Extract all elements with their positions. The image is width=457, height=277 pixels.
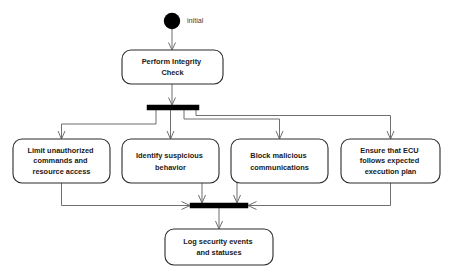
action-node-log-security-events[interactable]: Log security events and statuses <box>165 229 273 265</box>
action-label-line: communications <box>250 162 309 171</box>
fork-bar[interactable] <box>147 105 199 110</box>
action-node-label: Limit unauthorized commands and resource… <box>27 145 95 176</box>
action-label-line: follows expected <box>360 156 420 165</box>
action-node-limit-unauthorized-commands[interactable]: Limit unauthorized commands and resource… <box>13 139 110 183</box>
initial-node[interactable]: initial <box>164 13 204 29</box>
edge-identify-to-join <box>199 183 206 203</box>
fork-bar-shape <box>147 105 199 110</box>
action-label-line: resource access <box>33 167 91 176</box>
edge-initial-to-check <box>169 29 176 50</box>
edge-fork-to-ensure <box>196 110 394 139</box>
action-label-line: Limit unauthorized <box>27 145 94 154</box>
action-label-line: and statuses <box>196 248 241 257</box>
action-node-identify-suspicious-behavior[interactable]: Identify suspicious behavior <box>122 139 219 183</box>
action-node-label: Ensure that ECU follows expected executi… <box>360 145 422 176</box>
edge-fork-to-block <box>184 110 283 139</box>
edge-block-to-join <box>234 183 241 203</box>
action-label-line: Block malicious <box>250 151 306 160</box>
action-label-line: Perform Integrity <box>142 56 202 65</box>
join-bar-shape <box>190 203 248 208</box>
action-node-perform-integrity-check[interactable]: Perform Integrity Check <box>122 50 223 84</box>
initial-node-label: initial <box>187 16 204 25</box>
action-label-line: execution plan <box>365 167 417 176</box>
edge-check-to-fork <box>169 84 176 105</box>
edge-layer <box>58 29 394 229</box>
action-node-shape <box>231 139 328 183</box>
edge-fork-to-limit <box>58 110 156 139</box>
edge-fork-to-identify <box>167 110 174 139</box>
edge-join-to-log <box>216 208 223 229</box>
join-bar[interactable] <box>190 203 248 208</box>
activity-diagram-canvas: initial Perform Integrity Check Limit un… <box>0 0 457 277</box>
action-node-shape <box>122 139 219 183</box>
action-label-line: commands and <box>33 156 88 165</box>
action-node-ensure-ecu-execution-plan[interactable]: Ensure that ECU follows expected executi… <box>341 139 440 183</box>
action-node-block-malicious-communications[interactable]: Block malicious communications <box>231 139 328 183</box>
action-label-line: Identify suspicious <box>136 151 203 160</box>
action-label-line: Ensure that ECU <box>360 145 418 154</box>
action-label-line: Log security events <box>183 236 252 245</box>
action-label-line: Check <box>161 68 184 77</box>
edge-limit-to-join <box>62 183 191 210</box>
action-label-line: behavior <box>155 162 186 171</box>
edge-ensure-to-join <box>248 183 391 210</box>
initial-node-circle <box>164 13 180 29</box>
